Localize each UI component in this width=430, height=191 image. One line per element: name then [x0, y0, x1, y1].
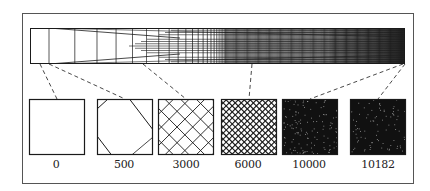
sample-square-10182 — [350, 99, 406, 156]
sample-label-3000: 3000 — [156, 158, 216, 171]
sample-label-6000: 6000 — [218, 158, 278, 171]
diagram-figure: 0 500 3000 6000 10000 10182 — [0, 0, 430, 191]
sample-label-10000: 10000 — [279, 158, 339, 171]
density-strip — [31, 28, 406, 64]
sample-label-500: 500 — [94, 158, 154, 171]
connector-line — [378, 64, 405, 99]
sample-square-500 — [97, 99, 153, 155]
connector-line — [49, 64, 125, 99]
connector-line — [249, 64, 252, 99]
sample-square-10000 — [282, 99, 339, 156]
sample-label-0: 0 — [26, 158, 86, 171]
dashed-connectors — [40, 64, 405, 99]
sample-square-0 — [30, 100, 85, 155]
connector-line — [40, 64, 57, 99]
connector-line — [143, 64, 186, 99]
sample-label-10182: 10182 — [348, 158, 408, 171]
connector-line — [310, 64, 403, 99]
sample-squares — [30, 99, 407, 156]
